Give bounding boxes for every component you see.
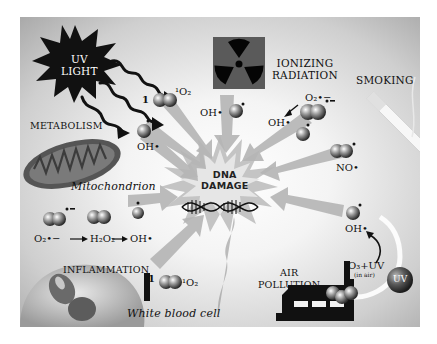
oh-radical-smoking: OH• (268, 117, 291, 128)
uv-badge-label: UV (393, 274, 408, 284)
singlet-oxygen-bottom: ¹O₂ (182, 277, 198, 288)
cigarette-icon (366, 77, 420, 157)
air-pollution-label: AIR POLLUTION (258, 267, 320, 291)
smoking-label: SMOKING (356, 74, 414, 86)
factory-icon (144, 217, 354, 321)
air-pollution-line2: POLLUTION (258, 279, 320, 291)
oh-radical-ionizing: OH• (200, 107, 223, 118)
nitric-oxide-radical: NO• (336, 162, 359, 173)
metabolism-label: METABOLISM (30, 120, 103, 131)
air-pollution-line1: AIR (258, 267, 320, 279)
singlet-oxygen-prefix-top: 1 (142, 94, 149, 105)
white-blood-cell-label: White blood cell (127, 307, 221, 320)
singlet-oxygen-prefix-bottom: 1 (148, 273, 155, 284)
uv-light-label: UV LIGHT (61, 53, 98, 77)
oh-radical-uv: OH• (137, 141, 160, 152)
mitochondrion-label: Mitochondrion (71, 180, 156, 193)
hydrogen-peroxide: H₂O₂ (90, 233, 115, 244)
ionizing-radiation-label: IONIZING RADIATION (272, 57, 338, 81)
dna-damage-line2: DAMAGE (201, 180, 249, 191)
oh-radical-inflammation: OH• (130, 233, 153, 244)
ionizing-label-line2: RADIATION (272, 69, 338, 81)
in-air-note: (in air) (354, 271, 375, 278)
oh-radical-pollution: OH• (345, 223, 368, 234)
singlet-oxygen-top: ¹O₂ (175, 86, 191, 97)
dna-damage-line1: DNA (201, 169, 249, 180)
radiation-icon (212, 37, 266, 89)
ionizing-label-line1: IONIZING (272, 57, 338, 69)
dna-damage-diagram: UV LIGHT IONIZING RADIATION SMOKING META… (20, 17, 420, 327)
uv-label-line2: LIGHT (61, 65, 98, 77)
dna-damage-label: DNA DAMAGE (201, 169, 249, 191)
uv-label-line1: UV (61, 53, 98, 65)
superoxide-inflammation: O₂•− (34, 233, 60, 244)
superoxide-smoking: O₂•− (305, 92, 331, 103)
inflammation-label: INFLAMMATION (63, 264, 149, 275)
ozone-uv: O₃+UV (348, 260, 384, 271)
